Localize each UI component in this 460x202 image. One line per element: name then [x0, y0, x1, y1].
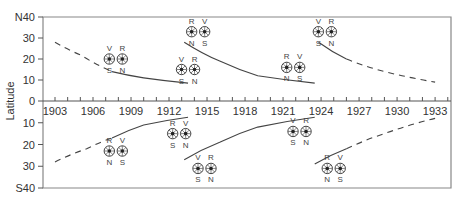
- polarity-label-top: R: [328, 17, 334, 26]
- sunspot-icon: [288, 126, 298, 136]
- polarity-label-top: V: [195, 153, 201, 162]
- x-tick-label: 1906: [81, 105, 105, 117]
- sunspot-icon: [193, 163, 203, 173]
- y-tick-label: 20: [23, 139, 35, 151]
- sunspot-pair: VSRN: [104, 44, 127, 75]
- sunspot-icon: [180, 128, 190, 138]
- sunspot-icon: [322, 163, 332, 173]
- hemisphere-label-bottom: N: [284, 74, 290, 83]
- polarity-label-top: R: [119, 44, 125, 53]
- hemisphere-label-bottom: S: [316, 39, 321, 48]
- y-tick-label: 0: [29, 95, 35, 107]
- x-tick-label: 1918: [233, 105, 257, 117]
- polarity-label-top: V: [120, 136, 126, 145]
- sunspot-icon: [199, 27, 209, 37]
- polarity-label-top: R: [284, 52, 290, 61]
- x-tick-label: 1921: [271, 105, 295, 117]
- plot-border: [43, 17, 451, 188]
- sunspot-icon: [176, 64, 186, 74]
- sunspot-pair: RNVS: [281, 52, 304, 83]
- x-tick-label: 1924: [309, 105, 333, 117]
- sunspot-icon: [117, 146, 127, 156]
- sunspot-icon: [117, 54, 127, 64]
- x-tick-label: 1927: [347, 105, 371, 117]
- hemisphere-label-bottom: N: [189, 39, 195, 48]
- sunspot-icon: [335, 163, 345, 173]
- polarity-label-top: R: [303, 116, 309, 125]
- sunspot-pair: VSRN: [313, 17, 336, 48]
- polarity-label-top: R: [170, 119, 176, 128]
- south-cycle-3-dashed-line: [346, 118, 435, 148]
- x-tick-label: 1933: [423, 105, 447, 117]
- hemisphere-label-bottom: S: [120, 158, 125, 167]
- hemisphere-label-bottom: N: [192, 77, 198, 86]
- hemisphere-label-bottom: S: [290, 138, 295, 147]
- plot-frame: [43, 17, 451, 188]
- north-cycle-1-dashed-line: [55, 42, 112, 71]
- north-cycle-2-solid-line: [184, 42, 315, 83]
- sunspot-icon: [301, 126, 311, 136]
- hemisphere-label-bottom: S: [338, 175, 343, 184]
- polarity-label-top: V: [183, 119, 189, 128]
- sunspot-icon: [281, 62, 291, 72]
- y-tick-label: 10: [23, 117, 35, 129]
- north-cycle-3-dashed-line: [346, 59, 435, 82]
- y-tick-label: 30: [23, 32, 35, 44]
- sunspot-icon: [104, 54, 114, 64]
- hemisphere-label-bottom: S: [170, 141, 175, 150]
- sunspot-icon: [313, 27, 323, 37]
- sunspot-icon: [167, 128, 177, 138]
- polarity-label-top: V: [107, 44, 113, 53]
- polarity-label-top: V: [202, 17, 208, 26]
- sunspot-icon: [189, 64, 199, 74]
- polarity-label-top: V: [290, 116, 296, 125]
- hemisphere-label-bottom: S: [179, 77, 184, 86]
- polarity-label-top: V: [297, 52, 303, 61]
- polarity-label-top: V: [179, 55, 185, 64]
- polarity-label-top: R: [106, 136, 112, 145]
- sunspot-icon: [326, 27, 336, 37]
- sunspot-pair: VSRN: [176, 55, 199, 86]
- y-tick-label: 30: [23, 160, 35, 172]
- polarity-label-top: R: [189, 17, 195, 26]
- hemisphere-label-bottom: N: [119, 66, 125, 75]
- x-axis: 1903190619091912191519181921192419271930…: [43, 97, 448, 117]
- hemisphere-label-bottom: N: [303, 138, 309, 147]
- hemisphere-label-bottom: S: [297, 74, 302, 83]
- polarity-label-top: R: [192, 55, 198, 64]
- sunspot-icon: [104, 146, 114, 156]
- hemisphere-label-bottom: S: [195, 175, 200, 184]
- x-tick-label: 1912: [157, 105, 181, 117]
- y-tick-label: 10: [23, 74, 35, 86]
- sunspot-icon: [206, 163, 216, 173]
- y-axis-label: Latitude: [4, 81, 16, 120]
- y-axis: N403020100102030S40: [15, 11, 43, 194]
- hemisphere-label-bottom: N: [106, 158, 112, 167]
- hemisphere-label-bottom: N: [328, 39, 334, 48]
- sunspot-pair: RNVS: [186, 17, 209, 48]
- polarity-label-top: R: [208, 153, 214, 162]
- polarity-label-top: V: [338, 153, 344, 162]
- sunspot-pair: RNVS: [322, 153, 345, 184]
- sunspot-pair: RSVN: [167, 119, 190, 150]
- south-cycle-1-dashed-line: [55, 138, 112, 162]
- hemisphere-label-bottom: N: [208, 175, 214, 184]
- sunspot-pair: VSRN: [288, 116, 311, 147]
- x-tick-label: 1909: [119, 105, 143, 117]
- polarity-label-top: R: [324, 153, 330, 162]
- sunspot-pair: RNVS: [104, 136, 127, 167]
- y-tick-label: N40: [15, 11, 35, 23]
- sunspot-pair: VSRN: [193, 153, 216, 184]
- x-tick-label: 1903: [43, 105, 67, 117]
- x-tick-label: 1915: [195, 105, 219, 117]
- sunspot-icon: [186, 27, 196, 37]
- hemisphere-label-bottom: N: [324, 175, 330, 184]
- hemisphere-label-bottom: S: [202, 39, 207, 48]
- x-tick-label: 1930: [385, 105, 409, 117]
- y-tick-label: 20: [23, 53, 35, 65]
- sunspot-icon: [294, 62, 304, 72]
- polarity-label-top: V: [316, 17, 322, 26]
- y-tick-label: S40: [15, 182, 35, 194]
- hemisphere-label-bottom: N: [183, 141, 189, 150]
- hemisphere-label-bottom: S: [107, 66, 112, 75]
